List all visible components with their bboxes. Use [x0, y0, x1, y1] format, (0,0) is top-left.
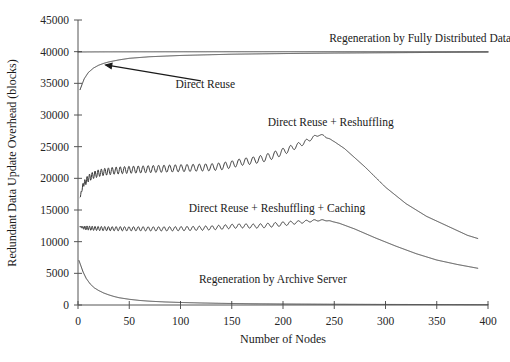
y-tick-label: 20000: [40, 172, 69, 184]
x-tick-label: 350: [428, 315, 446, 327]
line-chart-plot: 0500010000150002000025000300003500040000…: [0, 0, 510, 362]
series-label: Direct Reuse + Reshuffling: [268, 116, 394, 129]
y-tick-label: 35000: [40, 77, 69, 89]
y-tick-label: 10000: [40, 236, 69, 248]
y-tick-label: 40000: [40, 46, 69, 58]
x-tick-label: 250: [326, 315, 344, 327]
y-tick-label: 15000: [40, 204, 69, 216]
series-curves-group: [78, 52, 488, 305]
chart-container: 0500010000150002000025000300003500040000…: [0, 0, 510, 362]
series-label: Direct Reuse + Reshuffling + Caching: [189, 202, 366, 215]
x-tick-label: 0: [75, 315, 81, 327]
annotation-arrow-line: [106, 65, 201, 81]
x-tick-label: 150: [223, 315, 241, 327]
series-label: Regeneration by Fully Distributed Data: [329, 32, 510, 45]
y-tick-label: 5000: [46, 267, 69, 279]
annotation-arrow-group: [106, 63, 201, 80]
x-tick-label: 100: [172, 315, 190, 327]
annotation-arrow-head: [106, 63, 112, 68]
x-tick-label: 300: [377, 315, 395, 327]
y-axis-title: Redundant Data Update Overhead (blocks): [5, 59, 19, 266]
y-tick-label: 30000: [40, 109, 69, 121]
series-label: Direct Reuse: [175, 78, 235, 90]
x-tick-label: 400: [479, 315, 497, 327]
y-tick-label: 0: [63, 299, 69, 311]
series-curve: [80, 135, 478, 239]
x-tick-label: 200: [274, 315, 292, 327]
y-tick-group: 0500010000150002000025000300003500040000…: [40, 14, 82, 311]
series-curve: [80, 220, 478, 269]
x-axis-title: Number of Nodes: [240, 332, 326, 346]
series-label-group: Regeneration by Fully Distributed DataDi…: [175, 32, 510, 287]
y-axis-group: 0500010000150002000025000300003500040000…: [40, 14, 82, 311]
x-tick-label: 50: [124, 315, 136, 327]
series-label: Regeneration by Archive Server: [199, 273, 347, 286]
y-tick-label: 45000: [40, 14, 69, 26]
y-tick-label: 25000: [40, 141, 69, 153]
